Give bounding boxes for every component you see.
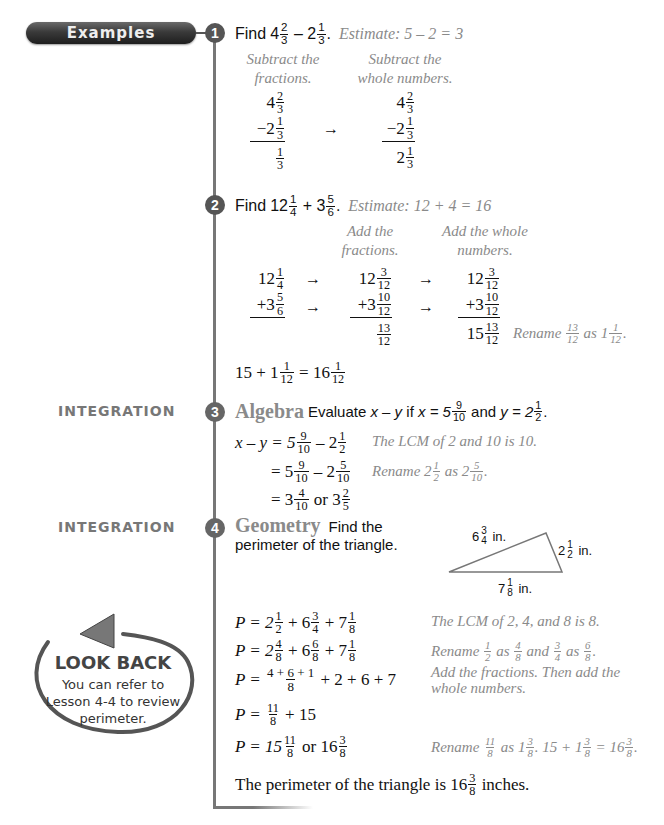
integration-label-4: INTEGRATION <box>58 519 175 535</box>
arrow-icon: → <box>418 270 434 288</box>
example-2-heading: Find 12 14 + 3 56 . Estimate: 12 + 4 = 1… <box>235 194 491 218</box>
example-1-problem: 4 23 – 2 13 . <box>270 22 331 46</box>
example-badge-1: 1 <box>205 23 225 43</box>
examples-header-pill: Examples <box>26 22 196 44</box>
example-4-line-4: P = 118 + 15 <box>235 702 316 727</box>
look-back-body: You can refer to Lesson 4-4 to review pe… <box>28 676 198 727</box>
example-1-estimate: Estimate: 5 – 2 = 3 <box>339 25 463 43</box>
example-4-note-2: Rename 12 as 48 and 34 as 68 . <box>431 640 596 663</box>
topic-algebra: Algebra <box>235 400 304 423</box>
example-4-line-3: P = 4 + 6 + 18 + 2 + 6 + 7 <box>235 666 396 693</box>
integration-label-3: INTEGRATION <box>58 403 175 419</box>
example-3-heading: Algebra Evaluate x – y if x = 5 910 and … <box>235 400 547 423</box>
topic-geometry: Geometry <box>235 514 321 536</box>
example-2-column-3: 12312 +31012 151312 <box>458 266 500 346</box>
example-4-heading: Geometry Find the perimeter of the trian… <box>235 516 398 554</box>
example-1-column-2: 423 −213 213 <box>382 90 415 170</box>
example-2-column-1: 1214 +356 <box>250 266 285 318</box>
examples-timeline-line <box>213 38 216 809</box>
timeline-bottom-rule <box>213 806 313 809</box>
triangle-side-bottom-label: 7 18 in. <box>498 578 532 598</box>
triangle-side-right-label: 2 12 in. <box>558 540 592 560</box>
arrow-icon: → <box>323 120 339 138</box>
example-3-line-2: = 5 910 – 2 510 <box>271 459 351 484</box>
example-3-line-3: = 3 410 or 3 25 <box>271 487 351 512</box>
example-badge-3: 3 <box>205 402 225 422</box>
arrow-icon: → <box>305 270 321 288</box>
example-2-column-2: 12312 +31012 1312 <box>350 266 392 347</box>
example-4-note-3: Add the fractions. Then add the whole nu… <box>431 664 620 696</box>
example-2-step2-label: Add the wholenumbers. <box>425 222 545 260</box>
look-back-title: LOOK BACK <box>28 652 198 673</box>
examples-header-label: Examples <box>26 24 196 42</box>
example-1-column-1: 423 −213 13 <box>250 90 285 171</box>
example-1-step2-label: Subtract thewhole numbers. <box>340 50 470 88</box>
example-4-line-1: P = 2 12 + 6 34 + 7 18 <box>235 610 357 635</box>
example-4-note-5: Rename 118 as 1 38 . 15 + 1 38 = 16 38 . <box>431 736 638 759</box>
arrow-icon: → <box>305 298 321 316</box>
example-2-final-sum: 15 + 1 112 = 16 112 <box>235 360 346 385</box>
example-1-step1-label: Subtract thefractions. <box>238 50 328 88</box>
example-3-note-2: Rename 2 12 as 2 510 . <box>372 460 488 483</box>
example-3-note-1: The LCM of 2 and 10 is 10. <box>372 433 537 450</box>
example-badge-2: 2 <box>205 195 225 215</box>
example-4-line-5: P = 15 118 or 16 38 <box>235 734 348 759</box>
example-2-problem: 12 14 + 3 56 . <box>270 194 340 218</box>
example-4-note-1: The LCM of 2, 4, and 8 is 8. <box>431 613 600 630</box>
example-3-line-1: x – y = 5 910 – 2 12 <box>235 430 347 455</box>
example-badge-4: 4 <box>205 518 225 538</box>
example-1-heading: Find 4 23 – 2 13 . Estimate: 5 – 2 = 3 <box>235 22 463 46</box>
example-2-estimate: Estimate: 12 + 4 = 16 <box>348 197 491 215</box>
example-4-conclusion: The perimeter of the triangle is 16 38 i… <box>235 772 529 797</box>
look-back-callout: LOOK BACK You can refer to Lesson 4-4 to… <box>28 612 198 740</box>
example-2-step1-label: Add thefractions. <box>330 222 410 260</box>
arrow-icon: → <box>418 298 434 316</box>
example-2-rename-note: Rename 1312 as 1 112 . <box>513 322 627 345</box>
triangle-side-top-label: 6 34 in. <box>472 526 506 546</box>
example-4-line-2: P = 2 48 + 6 68 + 7 18 <box>235 638 357 663</box>
